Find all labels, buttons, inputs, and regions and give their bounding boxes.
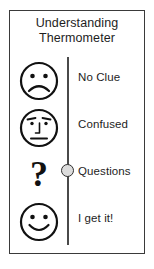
level-row[interactable]: Confused <box>10 104 144 151</box>
sad-face-icon <box>16 60 62 102</box>
confused-face-icon <box>16 107 62 149</box>
level-row[interactable]: No Clue <box>10 57 144 104</box>
level-label: No Clue <box>78 70 120 84</box>
understanding-thermometer-card: Understanding Thermometer No Clue <box>9 10 145 254</box>
level-label: Questions <box>78 164 131 178</box>
smiley-face-icon <box>16 201 62 243</box>
level-label: I get it! <box>78 211 113 225</box>
level-row[interactable]: I get it! <box>10 198 144 245</box>
page-title-line-2: Thermometer <box>10 31 144 46</box>
level-label: Confused <box>78 117 128 131</box>
question-mark-icon: ? <box>16 151 62 197</box>
page-title: Understanding Thermometer <box>10 16 144 46</box>
level-row[interactable]: ? Questions <box>10 151 144 198</box>
page-title-line-1: Understanding <box>10 16 144 31</box>
